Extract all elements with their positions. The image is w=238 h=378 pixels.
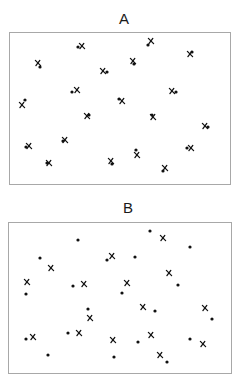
cross-marker-icon	[48, 265, 53, 270]
cross-marker-icon	[87, 315, 92, 320]
dot-marker-icon	[153, 309, 156, 312]
cross-marker-icon	[148, 38, 153, 43]
dot-marker-icon	[70, 90, 73, 93]
cross-marker-icon	[74, 87, 79, 92]
cross-marker-icon	[162, 165, 167, 170]
dot-marker-icon	[71, 284, 74, 287]
cross-marker-icon	[157, 352, 162, 357]
dot-marker-icon	[176, 283, 179, 286]
dot-marker-icon	[210, 317, 213, 320]
cross-marker-icon	[166, 270, 171, 275]
panel-b-markers	[24, 229, 213, 363]
cross-marker-icon	[81, 281, 86, 286]
cross-marker-icon	[30, 334, 35, 339]
cross-marker-icon	[110, 337, 115, 342]
dot-marker-icon	[188, 245, 191, 248]
dot-marker-icon	[112, 355, 115, 358]
dot-marker-icon	[24, 292, 27, 295]
dot-marker-icon	[148, 229, 151, 232]
cross-marker-icon	[202, 305, 207, 310]
cross-marker-icon	[140, 304, 145, 309]
cross-marker-icon	[119, 98, 124, 103]
dot-marker-icon	[188, 337, 191, 340]
cross-marker-icon	[134, 152, 139, 157]
cross-marker-icon	[188, 145, 193, 150]
cross-marker-icon	[200, 341, 205, 346]
cross-marker-icon	[187, 51, 192, 56]
cross-marker-icon	[19, 102, 24, 107]
panel-a-markers	[19, 38, 209, 172]
marker-layer	[0, 0, 238, 378]
dot-marker-icon	[136, 340, 139, 343]
cross-marker-icon	[169, 88, 174, 93]
dot-marker-icon	[134, 148, 137, 151]
dot-marker-icon	[165, 360, 168, 363]
cross-marker-icon	[148, 332, 153, 337]
dot-marker-icon	[38, 256, 41, 259]
cross-marker-icon	[124, 280, 129, 285]
dot-marker-icon	[23, 98, 26, 101]
dot-marker-icon	[46, 353, 49, 356]
dot-marker-icon	[120, 291, 123, 294]
cross-marker-icon	[160, 235, 165, 240]
dot-marker-icon	[76, 238, 79, 241]
dot-marker-icon	[76, 45, 79, 48]
dot-marker-icon	[105, 258, 108, 261]
cross-marker-icon	[79, 43, 84, 48]
dot-marker-icon	[24, 337, 27, 340]
dot-marker-icon	[66, 331, 69, 334]
cross-marker-icon	[35, 60, 40, 65]
cross-marker-icon	[76, 330, 81, 335]
cross-marker-icon	[100, 68, 105, 73]
dot-marker-icon	[133, 255, 136, 258]
dot-marker-icon	[185, 146, 188, 149]
cross-marker-icon	[109, 253, 114, 258]
dot-marker-icon	[86, 307, 89, 310]
cross-marker-icon	[24, 279, 29, 284]
